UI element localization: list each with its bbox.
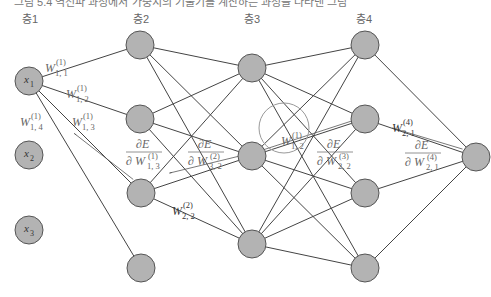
svg-text:2, 1: 2, 1 — [426, 162, 439, 172]
weight-label: W(1)1, 2 — [66, 83, 89, 104]
layer3-node — [238, 54, 266, 82]
svg-text:∂E: ∂E — [198, 137, 212, 151]
edge — [140, 45, 252, 244]
weight-label: W(1)1, 2 — [281, 130, 304, 151]
edge — [365, 157, 476, 268]
svg-text:(1): (1) — [83, 111, 93, 121]
layer2-node — [126, 105, 154, 133]
weight-label: W(2)2, 2 — [172, 200, 195, 221]
neural-network-diagram: x1x2x3 W(1)1, 1W(1)1, 2W(1)1, 3W(1)1, 4W… — [0, 0, 491, 297]
weight-label: W(1)1, 4 — [20, 111, 44, 132]
svg-text:1, 2: 1, 2 — [76, 94, 89, 104]
gradient-fraction: ∂E∂ W(1)1, 3 — [126, 137, 162, 171]
svg-text:(2): (2) — [183, 200, 193, 210]
input-node-x1 — [15, 67, 43, 95]
svg-text:∂ W: ∂ W — [126, 154, 146, 168]
edge — [252, 156, 365, 268]
svg-text:∂E: ∂E — [136, 137, 150, 151]
output-node — [462, 143, 490, 171]
svg-text:(3): (3) — [339, 151, 349, 161]
input-node-sub: 2 — [30, 154, 34, 163]
svg-text:1, 3: 1, 3 — [147, 161, 160, 171]
weight-label: W(1)1, 3 — [72, 111, 95, 132]
edge — [140, 45, 252, 68]
layer2-node — [126, 31, 154, 59]
layer3-node — [238, 142, 266, 170]
arrowhead — [170, 172, 173, 173]
svg-text:∂ W: ∂ W — [317, 154, 337, 168]
input-node-sub: 1 — [30, 80, 34, 89]
weight-label: W(4)2, 1 — [392, 117, 415, 138]
svg-text:1, 3: 1, 3 — [82, 122, 95, 132]
input-node-label: x — [23, 73, 29, 85]
svg-text:3, 2: 3, 2 — [209, 161, 222, 171]
svg-text:(1): (1) — [77, 83, 87, 93]
svg-text:(1): (1) — [292, 130, 302, 140]
svg-text:2, 2: 2, 2 — [182, 211, 195, 221]
layer4-node — [351, 105, 379, 133]
svg-text:(1): (1) — [56, 57, 66, 67]
edge — [29, 81, 141, 268]
svg-text:∂ W: ∂ W — [188, 154, 208, 168]
input-node-x3 — [15, 216, 43, 244]
svg-text:∂E: ∂E — [327, 137, 341, 151]
svg-text:1, 1: 1, 1 — [55, 68, 68, 78]
input-node-label: x — [23, 147, 29, 159]
edge — [252, 45, 365, 156]
arrow-line — [74, 133, 133, 179]
layer4-node — [351, 254, 379, 282]
svg-text:∂ W: ∂ W — [405, 155, 425, 169]
layer4-node — [351, 31, 379, 59]
svg-text:1, 4: 1, 4 — [30, 122, 44, 132]
arrowhead — [74, 133, 76, 135]
gradient-fraction: ∂E∂ W(3)2, 2 — [317, 137, 353, 171]
edge — [252, 244, 365, 268]
svg-text:2, 1: 2, 1 — [402, 128, 415, 138]
edge — [252, 193, 365, 244]
svg-text:(4): (4) — [427, 152, 437, 162]
edge — [140, 45, 252, 156]
svg-text:2, 2: 2, 2 — [338, 161, 351, 171]
gradient-fraction: ∂E∂ W(2)3, 2 — [188, 137, 224, 171]
svg-text:(2): (2) — [210, 151, 220, 161]
input-node-label: x — [23, 222, 29, 234]
layer2-node — [127, 254, 155, 282]
layer4-node — [351, 179, 379, 207]
edge — [252, 45, 365, 68]
input-node-x2 — [15, 141, 43, 169]
edge — [252, 45, 365, 244]
input-node-sub: 3 — [30, 229, 34, 238]
svg-text:(4): (4) — [403, 117, 413, 127]
svg-text:(1): (1) — [148, 151, 158, 161]
edge — [141, 193, 252, 244]
svg-text:1, 2: 1, 2 — [291, 141, 304, 151]
svg-text:(1): (1) — [31, 111, 41, 121]
weight-label: W(1)1, 1 — [45, 57, 68, 78]
svg-text:∂E: ∂E — [415, 138, 429, 152]
layer3-node — [238, 230, 266, 258]
layer2-node — [127, 179, 155, 207]
